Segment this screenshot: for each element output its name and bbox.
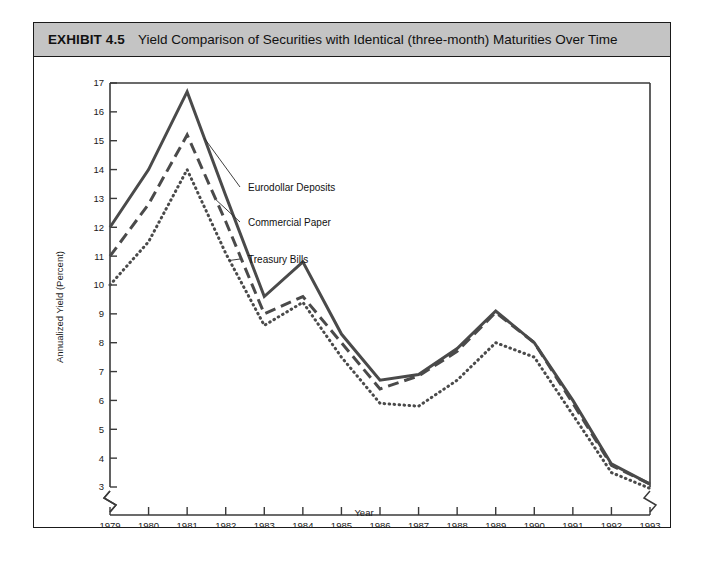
series-line-dashed (110, 135, 650, 484)
y-axis-tick-label: 15 (93, 135, 104, 146)
y-axis-tick-label: 5 (99, 424, 104, 435)
exhibit-number: EXHIBIT 4.5 (48, 32, 125, 47)
x-axis-tick-label: 1981 (177, 520, 198, 528)
series-annotation-label: Eurodollar Deposits (248, 182, 335, 193)
series-line-dotted (110, 170, 650, 489)
series-annotations: Eurodollar DepositsCommercial PaperTreas… (205, 138, 336, 265)
y-axis-tick-label: 3 (99, 481, 104, 492)
series-annotation-label: Commercial Paper (248, 217, 331, 228)
screenshot-page: EXHIBIT 4.5 Yield Comparison of Securiti… (0, 0, 703, 564)
x-axis-tick-label: 1990 (524, 520, 545, 528)
x-axis-tick-label: 1989 (485, 520, 506, 528)
x-axis-tick-label: 1984 (292, 520, 313, 528)
x-axis-tick-label: 1986 (369, 520, 390, 528)
chart-plot-area: 34567891011121314151617 1979198019811982… (34, 57, 670, 528)
y-axis-tick-label: 7 (99, 366, 104, 377)
x-axis-tick-label: 1983 (254, 520, 275, 528)
y-axis-tick-label: 6 (99, 395, 104, 406)
exhibit-frame: EXHIBIT 4.5 Yield Comparison of Securiti… (33, 22, 671, 528)
y-axis-tick-label: 9 (99, 308, 104, 319)
exhibit-title: Yield Comparison of Securities with Iden… (138, 32, 618, 47)
x-axis-tick-label: 1985 (331, 520, 352, 528)
annotation-leader-line (205, 138, 241, 187)
y-axis-tick-label: 8 (99, 337, 104, 348)
y-axis-tick-label: 12 (93, 222, 104, 233)
series-line-solid (110, 92, 650, 484)
x-axis-tick-label: 1993 (639, 520, 660, 528)
x-axis-tick-label: 1980 (138, 520, 159, 528)
x-axis-tick-label: 1982 (215, 520, 236, 528)
data-series-group (110, 92, 650, 489)
yield-comparison-line-chart: 34567891011121314151617 1979198019811982… (34, 57, 670, 528)
y-axis-tick-label: 16 (93, 106, 104, 117)
y-axis: 34567891011121314151617 (93, 77, 117, 512)
y-axis-tick-label: 4 (99, 453, 104, 464)
x-axis-tick-label: 1979 (99, 520, 120, 528)
exhibit-header: EXHIBIT 4.5 Yield Comparison of Securiti… (34, 23, 670, 57)
x-axis-title: Year (354, 507, 373, 518)
y-axis-tick-label: 17 (93, 77, 104, 88)
x-axis: 1979198019811982198319841985198619871988… (99, 83, 660, 528)
x-axis-tick-label: 1991 (562, 520, 583, 528)
x-axis-tick-label: 1992 (601, 520, 622, 528)
annotation-leader-line (230, 259, 240, 260)
y-axis-tick-label: 14 (93, 164, 104, 175)
y-axis-tick-label: 11 (94, 251, 104, 262)
x-axis-tick-label: 1987 (408, 520, 429, 528)
x-axis-tick-label: 1988 (447, 520, 468, 528)
y-axis-tick-label: 13 (93, 193, 104, 204)
y-axis-tick-label: 10 (93, 279, 104, 290)
y-axis-title: Annualized Yield (Percent) (54, 251, 65, 363)
series-annotation-label: Treasury Bills (248, 254, 308, 265)
